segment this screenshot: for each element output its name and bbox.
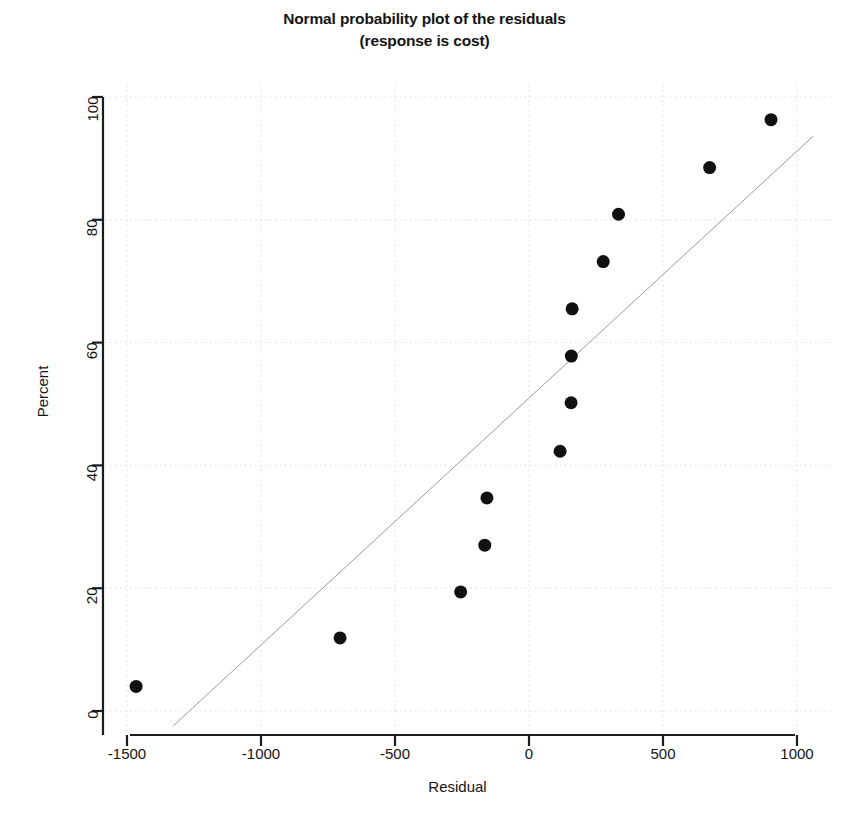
x-tick-label: -1500 xyxy=(108,745,146,762)
gridlines xyxy=(105,85,835,733)
data-point xyxy=(454,585,467,598)
x-tick-label: -500 xyxy=(380,745,410,762)
x-axis-label: Residual xyxy=(0,778,849,795)
x-tick-label: 500 xyxy=(650,745,675,762)
data-point xyxy=(612,208,625,221)
data-point xyxy=(554,445,567,458)
axis-lines xyxy=(103,97,795,735)
data-points xyxy=(130,113,778,693)
y-tick-label: 20 xyxy=(84,588,101,605)
data-point xyxy=(597,255,610,268)
data-point xyxy=(566,302,579,315)
data-point xyxy=(478,539,491,552)
data-point xyxy=(565,396,578,409)
reference-line-path xyxy=(173,136,813,725)
data-point xyxy=(130,680,143,693)
y-tick-label: 100 xyxy=(84,97,101,122)
x-tick-label: 0 xyxy=(525,745,533,762)
data-point xyxy=(565,350,578,363)
x-tick-label: -1000 xyxy=(242,745,280,762)
plot-canvas xyxy=(0,0,849,830)
data-point xyxy=(480,491,493,504)
y-axis-label: Percent xyxy=(34,332,51,452)
y-tick-label: 0 xyxy=(84,711,101,719)
x-tick-label: 1000 xyxy=(780,745,813,762)
tick-marks xyxy=(92,97,797,746)
data-point xyxy=(703,161,716,174)
x-axis-label-text: Residual xyxy=(428,778,486,795)
y-tick-label: 80 xyxy=(84,219,101,236)
y-tick-label: 60 xyxy=(84,342,101,359)
data-point xyxy=(334,631,347,644)
data-point xyxy=(765,113,778,126)
reference-line xyxy=(173,136,813,725)
y-tick-label: 40 xyxy=(84,465,101,482)
normal-probability-plot-figure: Normal probability plot of the residuals… xyxy=(0,0,849,830)
